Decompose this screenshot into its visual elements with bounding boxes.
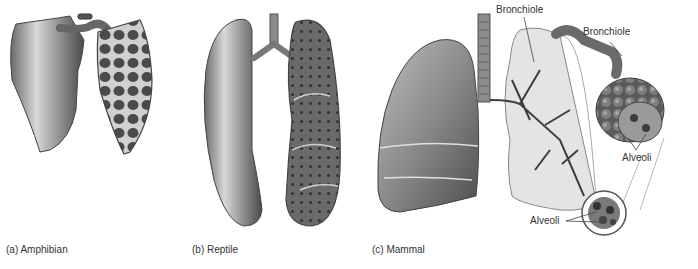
- figure-illustration: [0, 0, 698, 269]
- label-bronchiole-lung: Bronchiole: [496, 4, 543, 15]
- reptile-lungs: [204, 14, 340, 226]
- label-alveoli-cluster: Alveoli: [622, 152, 651, 163]
- label-bronchiole-cluster: Bronchiole: [583, 26, 630, 37]
- caption-reptile: (b) Reptile: [192, 244, 238, 255]
- caption-amphibian: (a) Amphibian: [6, 244, 68, 255]
- alveoli-inset: [582, 191, 626, 235]
- mammal-lungs: [378, 14, 596, 212]
- caption-mammal: (c) Mammal: [372, 244, 425, 255]
- label-alveoli-inset: Alveoli: [530, 215, 559, 226]
- lung-comparison-figure: (a) Amphibian (b) Reptile (c) Mammal Bro…: [0, 0, 698, 269]
- amphibian-lungs: [11, 14, 152, 154]
